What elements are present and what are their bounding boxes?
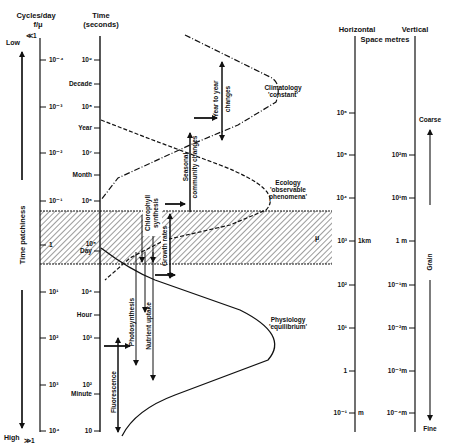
svg-text:Hour: Hour — [77, 311, 93, 318]
svg-text:10⁶: 10⁶ — [82, 197, 92, 204]
svg-text:10⁴: 10⁴ — [49, 427, 59, 434]
svg-text:10⁶: 10⁶ — [337, 109, 347, 116]
svg-text:1km: 1km — [358, 237, 371, 244]
svg-text:10⁻²: 10⁻² — [49, 149, 63, 156]
high-sub: ≫1 — [24, 437, 35, 444]
cycles-subheader: f/μ — [33, 20, 43, 29]
svg-text:changes: changes — [224, 85, 232, 112]
svg-text:'equilibrium': 'equilibrium' — [269, 323, 308, 331]
svg-text:10³: 10³ — [83, 334, 93, 341]
svg-text:10⁻³m: 10⁻³m — [388, 367, 407, 374]
chlorophyll-label: Chlorophyll synthesis — [144, 195, 160, 231]
climatology-label: Climatology 'constant' — [264, 84, 302, 98]
svg-text:Chlorophyll: Chlorophyll — [144, 195, 152, 231]
svg-text:10⁻⁴m: 10⁻⁴m — [387, 409, 407, 416]
band-mu-label: μ — [315, 234, 319, 242]
svg-text:10⁻¹m: 10⁻¹m — [388, 281, 407, 288]
grain-label: Grain — [426, 253, 433, 270]
seasonal-label: Seasonal community changes — [182, 135, 199, 198]
svg-text:10: 10 — [85, 427, 93, 434]
svg-text:10³: 10³ — [49, 381, 59, 388]
svg-text:Day: Day — [80, 247, 92, 255]
vertical-header: Vertical — [402, 25, 429, 34]
svg-text:10⁵: 10⁵ — [86, 240, 96, 247]
svg-text:10⁷: 10⁷ — [82, 149, 92, 156]
svg-text:community changes: community changes — [191, 135, 199, 198]
growth-rates-label: Growth rates — [161, 226, 168, 266]
physiology-label: Physiology 'equilibrium' — [269, 316, 308, 331]
vertical-ticks: 10²m 10¹m 1 m 10⁻¹m 10⁻²m 10⁻³m 10⁻⁴m — [387, 151, 407, 416]
grain-fine-label: Fine — [423, 425, 437, 432]
grain-coarse-label: Coarse — [419, 116, 441, 123]
low-label: Low — [6, 39, 21, 46]
fluorescence-label: Fluorescence — [110, 371, 117, 413]
space-header: Space metres — [361, 35, 410, 44]
time-header: Time — [92, 11, 109, 20]
nutrient-uptake-label: Nutrient uptake — [145, 302, 153, 350]
ecology-label: Ecology 'observable phenomena' — [269, 179, 307, 201]
time-subheader: (seconds) — [83, 20, 119, 29]
svg-text:10⁵: 10⁵ — [337, 151, 347, 158]
horizontal-header: Horizontal — [339, 25, 376, 34]
svg-text:phenomena': phenomena' — [269, 193, 307, 201]
svg-text:'constant': 'constant' — [268, 91, 299, 98]
svg-text:10²: 10² — [338, 281, 348, 288]
svg-text:1: 1 — [343, 367, 347, 374]
cycles-header: Cycles/day — [16, 11, 56, 20]
svg-text:10⁸: 10⁸ — [82, 103, 92, 110]
svg-text:m: m — [358, 409, 364, 416]
svg-text:Seasonal: Seasonal — [182, 153, 189, 182]
svg-text:1: 1 — [49, 241, 53, 248]
svg-text:10⁻⁴: 10⁻⁴ — [49, 56, 63, 63]
svg-text:'observable: 'observable — [270, 186, 306, 193]
svg-text:Minute: Minute — [71, 390, 92, 397]
svg-text:10²: 10² — [83, 381, 93, 388]
svg-text:10⁻¹: 10⁻¹ — [334, 409, 347, 416]
svg-text:Year to year: Year to year — [212, 80, 220, 117]
time-patchiness-label: Time patchiness — [18, 206, 27, 265]
svg-text:10²m: 10²m — [392, 151, 407, 158]
svg-text:Decade: Decade — [69, 80, 93, 87]
photosynthesis-label: Photosynthesis — [128, 297, 136, 346]
svg-text:Year: Year — [78, 124, 92, 131]
svg-text:10⁴: 10⁴ — [337, 194, 347, 201]
svg-text:synthesis: synthesis — [152, 198, 160, 228]
high-label: High — [4, 434, 20, 442]
svg-text:10³: 10³ — [338, 237, 348, 244]
svg-text:10¹m: 10¹m — [392, 194, 407, 201]
diagram-canvas: Cycles/day f/μ Time (seconds) Horizontal… — [0, 0, 453, 445]
svg-text:1 m: 1 m — [396, 237, 407, 244]
low-sup: ≪1 — [26, 32, 37, 39]
svg-text:10⁻²m: 10⁻²m — [388, 324, 407, 331]
svg-text:10¹: 10¹ — [338, 324, 347, 331]
svg-text:10⁻¹: 10⁻¹ — [49, 197, 62, 204]
svg-text:Month: Month — [73, 171, 93, 178]
svg-text:10⁴: 10⁴ — [82, 288, 92, 295]
svg-text:10⁹: 10⁹ — [82, 56, 92, 63]
svg-text:10²: 10² — [49, 334, 59, 341]
svg-text:10⁻³: 10⁻³ — [49, 103, 63, 110]
hatched-band — [40, 211, 332, 264]
svg-text:10¹: 10¹ — [49, 288, 58, 295]
